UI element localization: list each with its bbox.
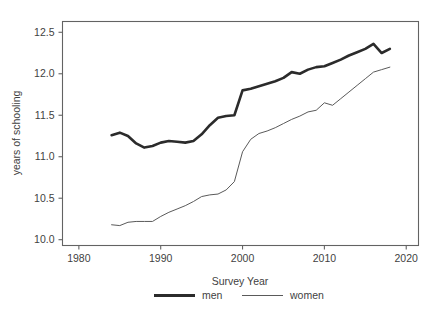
x-tick-label: 2000 — [231, 252, 255, 264]
x-tick-label: 2010 — [313, 252, 337, 264]
x-axis-title: Survey Year — [212, 275, 269, 287]
y-tick-label: 10.5 — [34, 192, 55, 204]
legend-label-men: men — [202, 289, 223, 301]
y-tick-label: 10.0 — [34, 233, 55, 245]
y-axis-title: years of schooling — [10, 91, 22, 176]
x-tick-label: 1990 — [149, 252, 173, 264]
x-tick-label: 1980 — [67, 252, 91, 264]
x-tick-label: 2020 — [395, 252, 419, 264]
chart-figure: 10.010.511.011.512.012.5 198019902000201… — [0, 0, 443, 314]
y-tick-label: 12.0 — [34, 67, 55, 79]
y-tick-label: 11.0 — [35, 150, 55, 162]
y-tick-label: 11.5 — [35, 109, 55, 121]
line-chart: 10.010.511.011.512.012.5 198019902000201… — [0, 0, 443, 314]
legend-label-women: women — [289, 289, 324, 301]
y-tick-label: 12.5 — [34, 26, 55, 38]
